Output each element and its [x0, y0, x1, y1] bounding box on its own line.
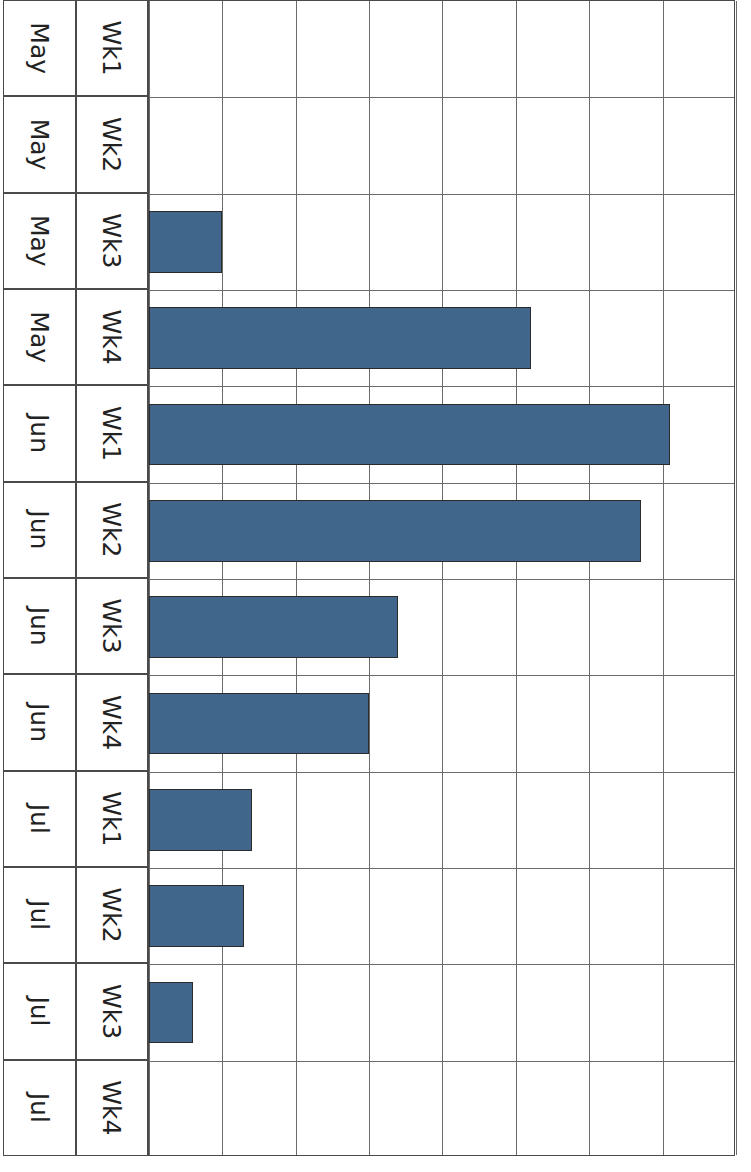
bar-chart: 01020304050607080 Wk1MayWk2MayWk3MayWk4M…	[0, 0, 751, 1172]
category-gridline	[149, 1061, 734, 1062]
category-gridline	[149, 675, 734, 676]
category-month-label: Jul	[3, 771, 76, 867]
category-month-label: May	[3, 96, 76, 192]
category-gridline	[149, 772, 734, 773]
bar	[149, 404, 670, 466]
value-gridline	[369, 1, 370, 1155]
category-gridline	[149, 579, 734, 580]
bar	[149, 885, 244, 947]
bar	[149, 693, 369, 755]
category-month-label: May	[3, 289, 76, 385]
rotated-chart-wrapper: 01020304050607080 Wk1MayWk2MayWk3MayWk4M…	[0, 0, 751, 1172]
category-week-label: Wk2	[76, 96, 148, 192]
category-month-label: Jun	[3, 482, 76, 578]
value-gridline	[516, 1, 517, 1155]
category-month-label: Jul	[3, 963, 76, 1059]
category-month-label: May	[3, 193, 76, 289]
category-month-label: Jun	[3, 385, 76, 481]
value-gridline	[589, 1, 590, 1155]
plot-area	[148, 0, 735, 1156]
category-week-label: Wk4	[76, 674, 148, 770]
value-gridline	[296, 1, 297, 1155]
category-gridline	[149, 194, 734, 195]
category-week-label: Wk3	[76, 193, 148, 289]
category-week-label: Wk2	[76, 482, 148, 578]
category-week-label: Wk1	[76, 0, 148, 96]
category-month-label: Jun	[3, 674, 76, 770]
value-gridline	[663, 1, 664, 1155]
category-month-label: Jul	[3, 1060, 76, 1156]
bar	[149, 982, 193, 1044]
category-gridline	[149, 290, 734, 291]
value-gridline	[222, 1, 223, 1155]
category-gridline	[149, 868, 734, 869]
category-week-label: Wk1	[76, 385, 148, 481]
category-week-label: Wk2	[76, 867, 148, 963]
bar	[149, 596, 398, 658]
category-week-label: Wk3	[76, 578, 148, 674]
category-gridline	[149, 964, 734, 965]
category-gridline	[149, 97, 734, 98]
category-week-label: Wk4	[76, 289, 148, 385]
category-week-label: Wk3	[76, 963, 148, 1059]
bar	[149, 211, 222, 273]
category-month-label: Jul	[3, 867, 76, 963]
bar	[149, 307, 531, 369]
value-gridline	[443, 1, 444, 1155]
category-month-label: May	[3, 0, 76, 96]
category-week-label: Wk4	[76, 1060, 148, 1156]
category-gridline	[149, 386, 734, 387]
category-gridline	[149, 483, 734, 484]
bar	[149, 500, 641, 562]
category-week-label: Wk1	[76, 771, 148, 867]
bar	[149, 789, 252, 851]
category-month-label: Jun	[3, 578, 76, 674]
value-gridline	[736, 1, 737, 1155]
